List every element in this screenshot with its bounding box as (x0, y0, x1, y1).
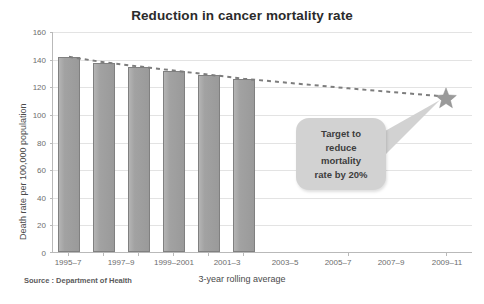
x-tick-mark (348, 253, 349, 256)
callout-line-1: Target to (321, 128, 361, 139)
x-tick-mark (173, 253, 174, 256)
gridline (53, 115, 472, 116)
target-star-icon (435, 87, 457, 109)
bar-1995-7[interactable] (58, 57, 80, 252)
y-tick-mark (50, 143, 53, 144)
plot-area (52, 32, 472, 253)
y-tick-label: 80 (12, 138, 46, 147)
y-tick-mark (50, 32, 53, 33)
bar-1997-9[interactable] (93, 63, 115, 252)
y-tick-mark (50, 225, 53, 226)
y-tick-label: 40 (12, 193, 46, 202)
callout-line-2: reduce (325, 142, 356, 153)
y-tick-label: 60 (12, 166, 46, 175)
chart-title: Reduction in cancer mortality rate (0, 8, 484, 23)
target-callout[interactable]: Target to reduce mortality rate by 20% (296, 118, 386, 190)
callout-line-3: mortality (321, 155, 361, 166)
y-tick-mark (50, 115, 53, 116)
y-tick-label: 20 (12, 221, 46, 230)
gridline (53, 225, 472, 226)
chart-container: Reduction in cancer mortality rate Death… (0, 0, 484, 304)
gridline (53, 143, 472, 144)
callout-line-4: rate by 20% (315, 169, 368, 180)
gridline (53, 170, 472, 171)
y-tick-mark (50, 198, 53, 199)
callout-text: Target to reduce mortality rate by 20% (311, 127, 372, 181)
y-tick-label: 160 (12, 28, 46, 37)
gridline (53, 32, 472, 33)
x-tick-mark (208, 253, 209, 256)
gridline (53, 87, 472, 88)
bar-1999-2001[interactable] (128, 67, 150, 252)
gridline (53, 198, 472, 199)
y-tick-mark (50, 60, 53, 61)
source-note: Source : Department of Health (24, 276, 132, 285)
y-tick-label: 120 (12, 83, 46, 92)
y-tick-label: 100 (12, 110, 46, 119)
x-tick-mark (243, 253, 244, 256)
y-tick-label: 140 (12, 55, 46, 64)
y-tick-label: 0 (12, 249, 46, 258)
bar-2005-7[interactable] (233, 79, 255, 252)
bar-2003-5[interactable] (198, 75, 220, 252)
x-tick-label-2001-3: 2001–3 (194, 258, 260, 267)
x-tick-mark (446, 253, 447, 256)
bar-2001-3[interactable] (163, 71, 185, 252)
x-tick-mark (138, 253, 139, 256)
gridline (53, 60, 472, 61)
y-tick-mark (50, 252, 53, 253)
y-tick-mark (50, 170, 53, 171)
x-tick-label-2009-11: 2009–11 (414, 258, 480, 267)
x-tick-mark (103, 253, 104, 256)
y-tick-mark (50, 87, 53, 88)
x-tick-mark (68, 253, 69, 256)
